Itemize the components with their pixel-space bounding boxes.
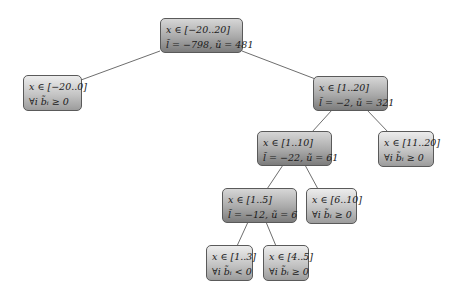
node-bounds: ∀i b̃ᵢ ≥ 0 [384, 150, 429, 165]
node-leaf-neg20-0: x ∈ [−20..0] ∀i b̃ᵢ ≥ 0 [23, 75, 82, 111]
tree-edge [81, 51, 160, 80]
node-bounds: l̃ = −22, ũ = 61 [263, 150, 327, 165]
node-domain: x ∈ [11..20] [384, 135, 429, 150]
node-domain: x ∈ [−20..0] [29, 79, 77, 94]
node-domain: x ∈ [1..5] [228, 192, 292, 207]
node-1-20: x ∈ [1..20] l̃ = −2, ũ = 321 [313, 76, 388, 111]
node-domain: x ∈ [1..10] [263, 135, 327, 150]
node-leaf-4-5: x ∈ [4..5] ∀i b̃ᵢ ≥ 0 [263, 245, 309, 281]
node-1-10: x ∈ [1..10] l̃ = −22, ũ = 61 [257, 131, 332, 166]
tree-edge [267, 165, 283, 189]
node-domain: x ∈ [4..5] [269, 249, 304, 264]
node-bounds: l̃ = −2, ũ = 321 [319, 95, 383, 110]
node-bounds: l̃ = −12, ũ = 6 [228, 207, 292, 222]
node-bounds: l̃ = −798, ũ = 481 [166, 37, 238, 52]
tree-edge [305, 165, 318, 189]
tree-edge [266, 222, 276, 246]
node-domain: x ∈ [6..10] [312, 192, 352, 207]
node-domain: x ∈ [1..3] [212, 249, 248, 264]
node-bounds: ∀i b̃ᵢ ≥ 0 [312, 207, 352, 222]
tree-edge [237, 222, 248, 246]
node-leaf-11-20: x ∈ [11..20] ∀i b̃ᵢ ≥ 0 [378, 131, 434, 167]
node-bounds: ∀i b̃ᵢ < 0 [212, 264, 248, 279]
tree-edge [242, 51, 318, 80]
node-bounds: ∀i b̃ᵢ ≥ 0 [29, 94, 77, 109]
node-domain: x ∈ [−20..20] [166, 22, 238, 37]
tree-edge [367, 110, 388, 132]
node-leaf-6-10: x ∈ [6..10] ∀i b̃ᵢ ≥ 0 [306, 188, 357, 224]
node-root: x ∈ [−20..20] l̃ = −798, ũ = 481 [160, 18, 243, 53]
tree-edge [312, 110, 332, 132]
node-leaf-1-3: x ∈ [1..3] ∀i b̃ᵢ < 0 [206, 245, 253, 281]
node-1-5: x ∈ [1..5] l̃ = −12, ũ = 6 [222, 188, 297, 223]
node-domain: x ∈ [1..20] [319, 80, 383, 95]
node-bounds: ∀i b̃ᵢ ≥ 0 [269, 264, 304, 279]
